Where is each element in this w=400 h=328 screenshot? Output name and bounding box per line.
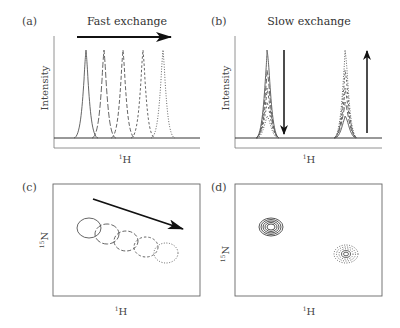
panel-c-plot xyxy=(53,184,200,296)
panel-a-title: Fast exchange xyxy=(87,15,167,28)
panel-b-label: (b) xyxy=(211,15,227,28)
peak-a1 xyxy=(74,50,98,138)
panel-c-xlabel: 1H xyxy=(115,305,128,317)
panel-a-label: (a) xyxy=(22,15,37,28)
panel-c-frame xyxy=(53,184,200,296)
peak-a4 xyxy=(131,50,155,138)
peak-a3 xyxy=(111,50,135,138)
crosspeak-c4 xyxy=(134,237,158,257)
panel-a-xlabel: 1H xyxy=(119,153,132,165)
contour-d-left xyxy=(259,218,283,236)
panel-b-xlabel: 1H xyxy=(303,153,316,165)
panel-b-ylabel: Intensity xyxy=(220,66,231,111)
panel-a-plot xyxy=(54,36,200,148)
peak-b-right-5 xyxy=(334,50,357,138)
panel-d-xlabel: 1H xyxy=(303,305,316,317)
panel-d-ylabel: 15N xyxy=(219,246,231,262)
peak-b-left-1 xyxy=(256,50,279,138)
arrow-diagonal-icon xyxy=(93,199,183,229)
peak-b-right-1 xyxy=(335,116,356,138)
figure-canvas xyxy=(0,0,400,328)
peak-a2 xyxy=(92,50,116,138)
crosspeak-c5 xyxy=(154,243,178,263)
peak-a5 xyxy=(151,50,175,138)
panel-c-label: (c) xyxy=(22,181,37,194)
panel-d-label: (d) xyxy=(211,181,227,194)
panel-b-plot xyxy=(235,36,382,148)
panel-a-ylabel: Intensity xyxy=(39,66,50,111)
panel-d-plot xyxy=(235,184,382,296)
panel-c-ylabel: 15N xyxy=(38,232,50,248)
panel-b-title: Slow exchange xyxy=(267,15,351,28)
contour-d-right xyxy=(334,245,358,263)
panel-d-frame xyxy=(235,184,382,296)
